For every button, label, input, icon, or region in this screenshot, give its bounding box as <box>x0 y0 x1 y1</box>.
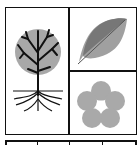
flower-icon <box>76 80 126 130</box>
bottom-strip-top-border <box>5 140 137 142</box>
bottom-strip-right-border <box>135 140 137 145</box>
bottom-strip-divider-3 <box>102 140 103 145</box>
leaf-icon <box>75 14 129 66</box>
bottom-strip-divider-2 <box>69 140 70 145</box>
bottom-strip-left-border <box>5 140 7 145</box>
bottom-strip-divider-1 <box>37 140 38 145</box>
tree-icon <box>10 25 66 115</box>
horizontal-divider <box>68 70 137 72</box>
